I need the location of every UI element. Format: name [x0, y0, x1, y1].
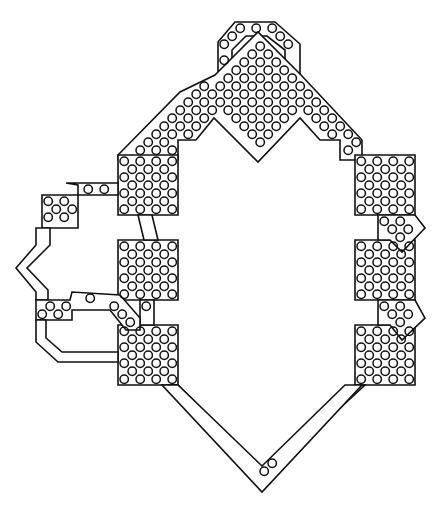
- left-link-1-wall: [138, 215, 158, 240]
- fortress-plan-diagram: [0, 0, 442, 510]
- plan-svg: [0, 0, 442, 510]
- outwork-lower-wall-wall: [36, 320, 118, 362]
- outwork-west-wall: [16, 228, 50, 300]
- top-wedge-wall: [118, 32, 362, 162]
- bottom-v-wall: [162, 385, 362, 492]
